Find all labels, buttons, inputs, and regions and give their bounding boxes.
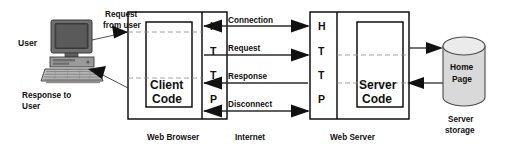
client-protocol-letter-p: P [210, 93, 217, 105]
web-browser-caption: Web Browser [147, 133, 200, 142]
message-label-request: Request [228, 44, 261, 53]
server-code-label-line1: Server [359, 78, 397, 92]
client-code-label-line2: Code [152, 92, 182, 106]
user-label: User [18, 38, 38, 48]
server-protocol-letter-t1: T [318, 45, 325, 57]
server-protocol-letter-t2: T [318, 69, 325, 81]
home-page-label-line2: Page [452, 74, 472, 84]
message-label-response: Response [228, 72, 268, 81]
message-label-connection: Connection [228, 16, 273, 25]
server-protocol-letter-p: P [318, 93, 325, 105]
internet-caption: Internet [235, 133, 265, 142]
storage-caption-line2: storage [445, 126, 475, 135]
storage-caption-line1: Server [448, 115, 474, 124]
diagram-canvas: User Request from user Response to User … [0, 0, 509, 158]
client-protocol-letter-t2: T [210, 69, 217, 81]
diagram-svg: User Request from user Response to User … [0, 0, 509, 158]
response-to-user-label-line2: User [22, 102, 41, 111]
server-storage-flows [407, 42, 443, 89]
server-code-label-line2: Code [362, 92, 392, 106]
client-protocol-letter-h: H [210, 20, 218, 32]
desktop-computer-icon [41, 20, 103, 83]
response-to-user-label-line1: Response to [22, 91, 71, 100]
request-from-user-label-line2: from user [103, 21, 142, 30]
home-page-label-line1: Home [450, 62, 474, 72]
client-code-label-line1: Client [150, 78, 183, 92]
web-server-caption: Web Server [330, 133, 376, 142]
message-label-disconnect: Disconnect [228, 100, 272, 109]
request-from-user-label-line1: Request [105, 10, 138, 19]
server-protocol-letter-h: H [318, 20, 326, 32]
client-protocol-letter-t1: T [210, 45, 217, 57]
